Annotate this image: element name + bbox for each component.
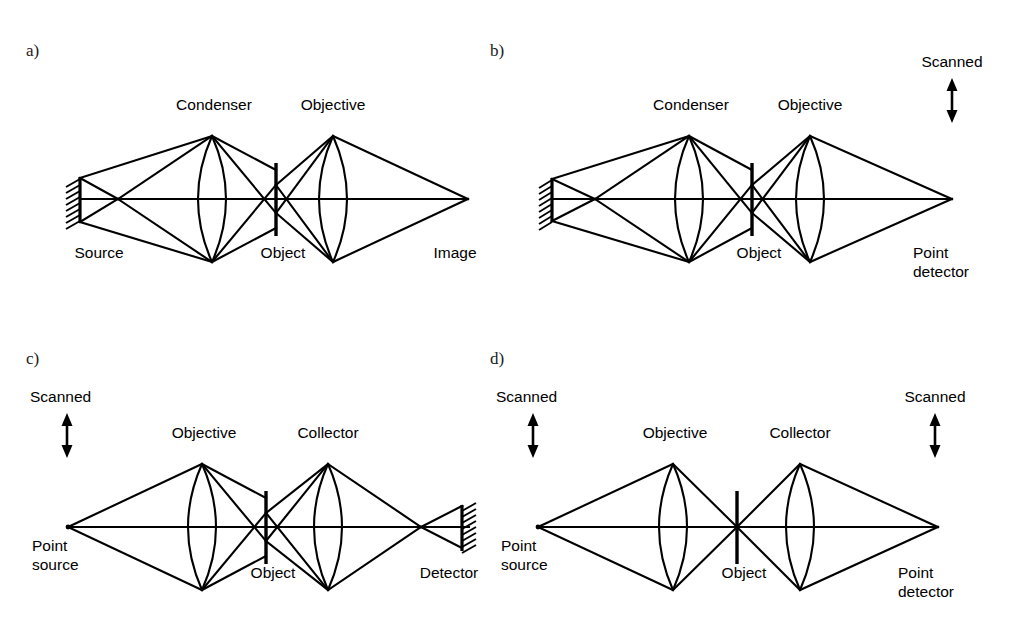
panel-c-scanned-arrow-icon (62, 413, 73, 458)
panel-d-label-point-detector-line1: Point (898, 564, 934, 581)
figure-canvas: a) (0, 0, 1018, 630)
panel-d-scanned-marker-left: Scanned (496, 388, 557, 458)
panel-b-label-point-detector-line1: Point (913, 244, 949, 261)
panel-b-label-condenser: Condenser (653, 96, 729, 113)
panel-d-label-point-source-line2: source (501, 556, 548, 573)
panel-c-letter: c) (26, 349, 39, 368)
panel-d-scanned-arrow-right-icon (930, 413, 941, 458)
panel-a-label-source: Source (74, 244, 123, 261)
panel-c-label-point-source-line2: source (32, 556, 79, 573)
panel-d-label-point-detector-line2: detector (898, 583, 954, 600)
panel-d-label-object: Object (722, 564, 767, 581)
panel-d-label-objective: Objective (643, 424, 708, 441)
panel-b-label-objective: Objective (778, 96, 843, 113)
panel-a-label-image: Image (433, 244, 476, 261)
panel-c-label-collector: Collector (297, 424, 358, 441)
panel-a-label-object: Object (261, 244, 306, 261)
panel-d-scanned-label-left: Scanned (496, 388, 557, 405)
panel-d-label-point-source-line1: Point (501, 537, 537, 554)
panel-c-scanned-label: Scanned (30, 388, 91, 405)
panel-b-scanned-arrow-icon (947, 78, 958, 123)
panel-b-scanned-marker-right: Scanned (921, 53, 982, 123)
panel-c: c) Scanned (26, 349, 478, 590)
panel-b-label-object: Object (737, 244, 782, 261)
panel-d: d) Scanned Scanned (490, 349, 966, 600)
panel-d-scanned-marker-right: Scanned (904, 388, 965, 458)
panel-d-scanned-arrow-left-icon (528, 413, 539, 458)
panel-c-scanned-marker-left: Scanned (30, 388, 91, 458)
panel-a-letter: a) (26, 41, 39, 60)
panel-b-label-point-detector-line2: detector (913, 263, 969, 280)
panel-a-label-condenser: Condenser (176, 96, 252, 113)
panel-d-label-collector: Collector (769, 424, 830, 441)
panel-b-source-symbol (539, 178, 552, 230)
panel-a-label-objective: Objective (301, 96, 366, 113)
panel-b-scanned-label: Scanned (921, 53, 982, 70)
panel-c-label-point-source-line1: Point (32, 537, 68, 554)
panel-b-letter: b) (490, 41, 504, 60)
panel-c-label-detector: Detector (420, 564, 479, 581)
panel-b: b) (490, 41, 983, 280)
panel-d-letter: d) (490, 349, 504, 368)
panel-d-scanned-label-right: Scanned (904, 388, 965, 405)
panel-a-source-symbol (66, 177, 80, 229)
panel-a: a) (26, 41, 477, 262)
panel-c-label-object: Object (251, 564, 296, 581)
panel-c-label-objective: Objective (172, 424, 237, 441)
optics-figure: a) (0, 0, 1018, 630)
